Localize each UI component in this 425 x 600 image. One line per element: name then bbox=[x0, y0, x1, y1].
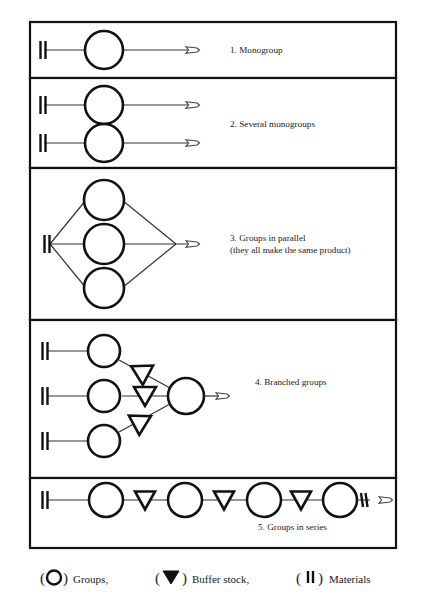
legend-close-paren: ) bbox=[318, 570, 323, 587]
output-arrow-icon bbox=[186, 102, 200, 108]
group-node bbox=[84, 268, 124, 308]
group-node bbox=[89, 483, 123, 517]
output-arrow-icon bbox=[186, 140, 200, 146]
group-node bbox=[88, 335, 120, 367]
panel-3-caption-line-2: (they all make the same product) bbox=[230, 245, 351, 255]
group-node bbox=[84, 180, 124, 220]
panel-3-caption: 3. Groups in parallel bbox=[230, 233, 306, 243]
panel-2-frame bbox=[30, 78, 396, 168]
diagram-root: 1. Monogroup 2. Several monogroups bbox=[0, 0, 425, 600]
output-arrow-icon bbox=[216, 393, 230, 399]
output-arrow-icon bbox=[379, 497, 393, 503]
group-node bbox=[84, 224, 124, 264]
legend-label-buffer-stock: Buffer stock, bbox=[192, 573, 249, 585]
legend-close-paren: ) bbox=[63, 570, 68, 587]
group-node bbox=[168, 483, 202, 517]
group-node bbox=[85, 86, 123, 124]
process-configuration-diagram: 1. Monogroup 2. Several monogroups bbox=[0, 0, 425, 600]
legend-close-paren: ) bbox=[182, 570, 187, 587]
panel-5-caption: 5. Groups in series bbox=[258, 522, 327, 532]
panel-several-monogroups: 2. Several monogroups bbox=[30, 78, 396, 168]
output-arrow-icon bbox=[186, 47, 200, 53]
legend-item-buffer-stock: ( ) Buffer stock, bbox=[155, 570, 249, 587]
circle-icon bbox=[47, 571, 61, 585]
panel-groups-in-series: 5. Groups in series bbox=[30, 478, 396, 548]
legend-open-paren: ( bbox=[40, 570, 45, 587]
panel-monogroup: 1. Monogroup bbox=[30, 22, 396, 78]
legend-label-groups: Groups, bbox=[73, 573, 108, 585]
panel-groups-in-parallel: 3. Groups in parallel (they all make the… bbox=[30, 168, 396, 320]
legend-item-materials: ( ) Materials bbox=[296, 570, 371, 587]
panel-1-caption: 1. Monogroup bbox=[230, 45, 283, 55]
panel-branched-groups: 4. Branched groups bbox=[30, 320, 396, 478]
output-arrow-icon bbox=[186, 241, 200, 247]
group-node bbox=[85, 31, 123, 69]
panel-4-caption: 4. Branched groups bbox=[255, 377, 327, 387]
panel-4-frame bbox=[30, 320, 396, 478]
group-node bbox=[323, 483, 357, 517]
group-node-merge bbox=[168, 378, 204, 414]
group-node bbox=[88, 380, 120, 412]
legend: ( ) Groups, ( ) Buffer stock, ( ) Materi… bbox=[40, 570, 371, 587]
panel-2-caption: 2. Several monogroups bbox=[230, 119, 315, 129]
legend-open-paren: ( bbox=[296, 570, 301, 587]
group-node bbox=[85, 124, 123, 162]
triangle-down-icon bbox=[163, 571, 179, 584]
legend-item-groups: ( ) Groups, bbox=[40, 570, 108, 587]
legend-open-paren: ( bbox=[155, 570, 160, 587]
legend-label-materials: Materials bbox=[329, 573, 371, 585]
group-node bbox=[88, 425, 120, 457]
group-node bbox=[247, 483, 281, 517]
